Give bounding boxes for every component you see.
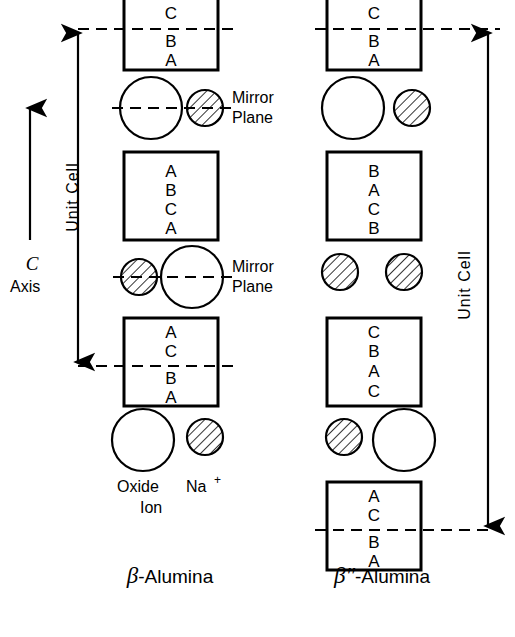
oxide-ion-circle bbox=[112, 409, 174, 471]
legend-sodium-superscript: + bbox=[214, 473, 221, 487]
stack-letter: B bbox=[368, 219, 379, 238]
stack-letter: C bbox=[368, 323, 380, 342]
stack-letter: A bbox=[165, 323, 177, 342]
right-caption-rest: -Alumina bbox=[355, 566, 430, 587]
stack-letter: B bbox=[165, 369, 176, 388]
stack-letter: A bbox=[368, 51, 380, 70]
right-caption-greek: β bbox=[333, 563, 346, 588]
left-interlayer-1: Mirror Plane bbox=[112, 77, 274, 139]
right-interlayer-3 bbox=[326, 409, 435, 471]
legend: Oxide Ion Na + bbox=[117, 473, 221, 516]
stack-letter: B bbox=[368, 162, 379, 181]
legend-oxide-label-line1: Oxide bbox=[117, 478, 159, 495]
right-caption-primes: ″ bbox=[345, 563, 355, 588]
left-interlayer-2: Mirror Plane bbox=[113, 246, 274, 308]
c-axis-symbol: C bbox=[26, 253, 39, 274]
right-block-2: B A C B bbox=[327, 152, 421, 240]
alumina-structure-diagram: A C B A Mirror Plane A B C A Mirror Plan… bbox=[0, 0, 515, 637]
right-unit-cell-indicator: Unit Cell bbox=[456, 33, 488, 526]
stack-letter: C bbox=[165, 4, 177, 23]
stack-letter: C bbox=[368, 382, 380, 401]
sodium-ion-circle bbox=[322, 254, 358, 290]
stack-letter: A bbox=[368, 362, 380, 381]
left-block-1: A C B A bbox=[78, 0, 240, 70]
stack-letter: A bbox=[165, 388, 177, 407]
legend-oxide-label-line2: Ion bbox=[140, 499, 162, 516]
sodium-ion-circle bbox=[394, 90, 430, 126]
mirror-plane-label-line2: Plane bbox=[232, 278, 273, 295]
left-block-2: A B C A bbox=[124, 152, 218, 240]
stack-letter: B bbox=[368, 32, 379, 51]
stack-letter: A bbox=[165, 162, 177, 181]
left-interlayer-3-legend bbox=[112, 409, 223, 471]
figure-container: A C B A Mirror Plane A B C A Mirror Plan… bbox=[0, 0, 515, 637]
stack-letter: C bbox=[368, 200, 380, 219]
stack-letter: C bbox=[368, 506, 380, 525]
sodium-ion-circle bbox=[386, 254, 422, 290]
mirror-plane-label-line1: Mirror bbox=[232, 89, 274, 106]
sodium-ion-circle bbox=[326, 419, 362, 455]
left-block-3: A C B A bbox=[78, 318, 240, 407]
stack-letter: A bbox=[368, 0, 380, 2]
right-interlayer-1 bbox=[322, 77, 430, 139]
oxide-ion-circle bbox=[322, 77, 384, 139]
left-caption-rest: -Alumina bbox=[138, 566, 213, 587]
stack-letter: A bbox=[165, 0, 177, 2]
left-unit-cell-indicator: Unit Cell bbox=[64, 33, 81, 362]
stack-letter: C bbox=[165, 200, 177, 219]
unit-cell-label: Unit Cell bbox=[64, 162, 81, 231]
stack-letter: A bbox=[368, 181, 380, 200]
stack-letter: B bbox=[165, 181, 176, 200]
stack-letter: B bbox=[368, 342, 379, 361]
mirror-plane-label-line2: Plane bbox=[232, 109, 273, 126]
right-block-1: A C B A bbox=[315, 0, 500, 70]
unit-cell-label: Unit Cell bbox=[456, 250, 473, 319]
c-axis-indicator: C Axis bbox=[10, 108, 40, 295]
stack-letter: C bbox=[165, 342, 177, 361]
mirror-plane-label-line1: Mirror bbox=[232, 258, 274, 275]
stack-letter: A bbox=[165, 219, 177, 238]
stack-letter: A bbox=[368, 487, 380, 506]
stack-letter: C bbox=[368, 4, 380, 23]
right-block-4: A C B A bbox=[315, 482, 500, 571]
right-caption: β″-Alumina bbox=[333, 563, 430, 588]
c-axis-label: Axis bbox=[10, 278, 40, 295]
oxide-ion-circle bbox=[373, 409, 435, 471]
legend-sodium-label: Na bbox=[186, 478, 207, 495]
stack-letter: A bbox=[165, 51, 177, 70]
stack-letter: B bbox=[165, 32, 176, 51]
right-interlayer-2 bbox=[322, 254, 422, 290]
sodium-ion-circle bbox=[187, 419, 223, 455]
stack-letter: B bbox=[368, 533, 379, 552]
left-caption: β-Alumina bbox=[126, 563, 214, 588]
left-caption-greek: β bbox=[126, 563, 139, 588]
right-block-3: C B A C bbox=[327, 318, 421, 406]
